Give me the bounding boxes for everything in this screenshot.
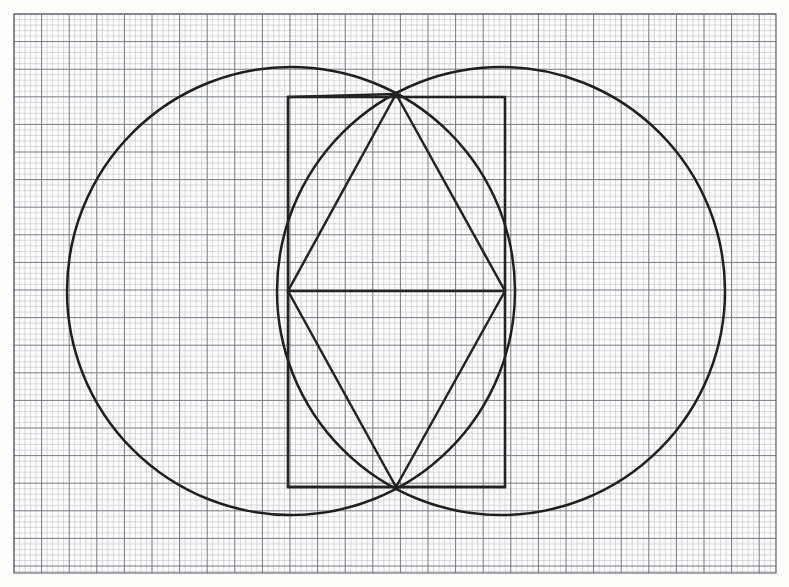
- geometric-construction-drawing: [0, 0, 789, 587]
- graph-paper-figure: [0, 0, 789, 587]
